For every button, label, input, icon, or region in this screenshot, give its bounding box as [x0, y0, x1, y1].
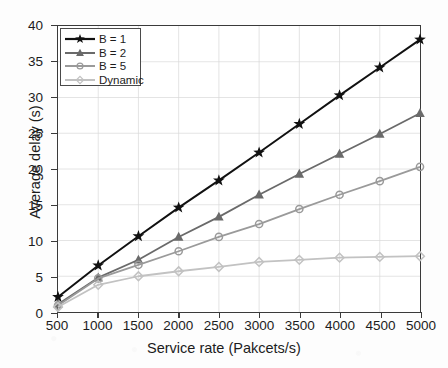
x-tick-label: 2000: [163, 318, 193, 333]
y-tick-label: 40: [28, 18, 43, 33]
legend-label: B = 2: [99, 46, 126, 60]
x-tick-label: 500: [46, 318, 69, 333]
y-axis-title: Average delay (s): [27, 42, 43, 282]
data-series: [54, 252, 425, 312]
legend-label: B = 1: [99, 32, 126, 46]
y-tick-label: 0: [35, 306, 43, 321]
legend-marker-triangle-icon: [63, 46, 97, 60]
legend-marker-diamond-icon: [63, 73, 97, 87]
x-tick-label: 4000: [325, 318, 355, 333]
legend-item[interactable]: B = 1: [63, 32, 141, 46]
legend-item[interactable]: B = 5: [63, 59, 141, 73]
x-tick-label: 3000: [244, 318, 274, 333]
legend: B = 1B = 2B = 5Dynamic: [60, 28, 141, 86]
data-point-marker: [214, 212, 224, 221]
x-tick-label: 4500: [366, 318, 396, 333]
x-tick-label: 2500: [204, 318, 234, 333]
series-line: [58, 167, 420, 306]
legend-item[interactable]: Dynamic: [63, 73, 141, 87]
series-line: [58, 113, 420, 304]
legend-label: B = 5: [99, 59, 126, 73]
data-series: [53, 108, 425, 308]
legend-item[interactable]: B = 2: [63, 46, 141, 60]
x-axis-title: Service rate (Pakcets/s): [0, 340, 448, 356]
y-axis-tick-labels: 0510152025303540: [0, 25, 51, 313]
x-tick-mark: [421, 312, 422, 318]
data-series: [54, 163, 423, 309]
x-tick-label: 1000: [82, 318, 112, 333]
series-line: [58, 256, 420, 307]
legend-marker-circle-icon: [63, 59, 97, 73]
x-axis-tick-labels: 500100015002000250030003500400045005000: [57, 318, 421, 338]
legend-marker-star-icon: [63, 32, 97, 46]
data-point-marker: [415, 108, 425, 117]
x-tick-label: 1500: [123, 318, 153, 333]
x-tick-label: 3500: [285, 318, 315, 333]
chart-figure: 0510152025303540 50010001500200025003000…: [0, 0, 448, 368]
x-tick-label: 5000: [406, 318, 436, 333]
legend-label: Dynamic: [99, 73, 144, 87]
